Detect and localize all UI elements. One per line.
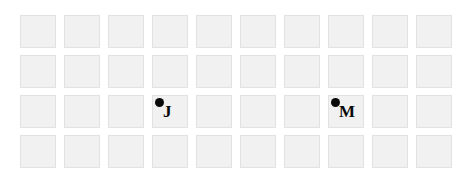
grid-cell — [372, 135, 408, 168]
grid-cell — [284, 55, 320, 88]
grid-cell — [240, 15, 276, 48]
grid-cell — [152, 55, 188, 88]
grid-cell — [20, 135, 56, 168]
grid-cell — [196, 135, 232, 168]
grid-cell — [108, 15, 144, 48]
grid-cell — [416, 95, 452, 128]
grid-cell — [64, 15, 100, 48]
grid-cell — [108, 135, 144, 168]
grid-cell — [416, 55, 452, 88]
grid-cell — [240, 95, 276, 128]
grid-cell — [20, 55, 56, 88]
grid-cell — [372, 95, 408, 128]
marker-label: M — [339, 103, 355, 120]
grid-cell — [328, 55, 364, 88]
marker-label: J — [163, 103, 172, 120]
grid-cell — [240, 55, 276, 88]
grid-cell — [152, 15, 188, 48]
grid-cell — [328, 135, 364, 168]
grid-cell — [372, 55, 408, 88]
grid-cell — [372, 15, 408, 48]
grid-cell — [284, 135, 320, 168]
grid-cell — [284, 95, 320, 128]
grid-cell — [196, 55, 232, 88]
grid-cell — [20, 95, 56, 128]
grid-cell — [20, 15, 56, 48]
grid-cell — [416, 135, 452, 168]
grid-cell — [240, 135, 276, 168]
grid-cell — [108, 95, 144, 128]
grid-cell — [152, 135, 188, 168]
grid-cell — [416, 15, 452, 48]
grid-cell — [328, 15, 364, 48]
grid-cell — [196, 95, 232, 128]
grid-cell — [108, 55, 144, 88]
grid-cell — [64, 55, 100, 88]
grid-cell — [64, 135, 100, 168]
grid-cell — [196, 15, 232, 48]
grid-cell — [284, 15, 320, 48]
grid-cell — [64, 95, 100, 128]
